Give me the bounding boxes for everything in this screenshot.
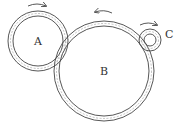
gear-c: C <box>139 28 173 51</box>
gear-b-label: B <box>100 65 108 78</box>
arrow-clockwise-c-icon <box>140 23 157 25</box>
gear-b: B <box>54 21 154 121</box>
gear-a-label: A <box>33 35 43 48</box>
gear-a: A <box>8 11 68 71</box>
gear-diagram: A B C <box>0 0 175 123</box>
arrow-counterclockwise-b-icon <box>95 11 112 13</box>
arrow-clockwise-a-icon <box>28 4 46 6</box>
gear-c-label: C <box>165 28 173 41</box>
